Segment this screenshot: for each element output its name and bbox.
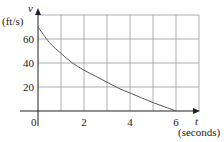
grid [38,15,199,111]
y-tick-label: 40 [23,57,35,69]
y-tick-label: 20 [23,81,35,93]
origin-label: 0 [31,116,37,128]
velocity-chart: 246204060 0 v (ft/s) t (seconds) [0,0,224,142]
y-tick-label: 60 [23,33,35,45]
axes [20,8,200,126]
y-axis-variable: v [28,2,33,14]
x-axis-label: (seconds) [178,126,220,139]
y-axis-label: (ft/s) [2,15,24,28]
x-tick-label: 4 [127,116,133,128]
y-axis-arrow [35,8,41,15]
x-tick-label: 2 [81,116,87,128]
tick-labels: 246204060 [23,33,179,128]
